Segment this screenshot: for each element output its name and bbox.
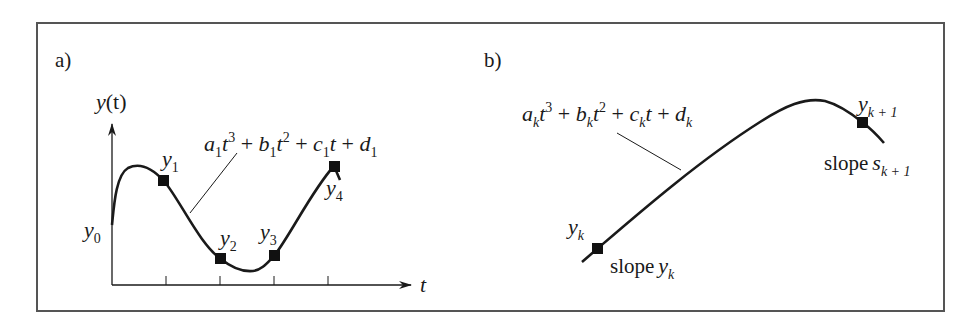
knot-yk xyxy=(592,243,603,254)
y-axis-label: y(t) xyxy=(96,91,127,113)
knot-yk1 xyxy=(857,117,868,128)
point-label-yk1: yk + 1 xyxy=(858,93,897,115)
equation-leader-b xyxy=(617,133,681,170)
equation-b: akt3 + bkt2 + ckt + dk xyxy=(522,103,692,125)
point-label-y1: y1 xyxy=(162,148,179,170)
point-label-y2: y2 xyxy=(220,227,237,249)
panel-a-label: a) xyxy=(55,50,71,71)
knot-y1 xyxy=(158,175,169,186)
point-label-yk: yk xyxy=(568,216,584,238)
slope-label-yk: slope yk xyxy=(610,255,674,277)
equation-a: a1t3 + b1t2 + c1t + d1 xyxy=(204,133,377,155)
x-axis-label: t xyxy=(420,274,426,296)
slope-label-sk1: slope sk + 1 xyxy=(824,152,911,174)
knot-y3 xyxy=(269,250,280,261)
knot-y4 xyxy=(329,161,340,172)
point-label-y0: y0 xyxy=(84,219,101,241)
point-label-y4: y4 xyxy=(326,177,343,199)
equation-leader-a xyxy=(190,153,237,213)
panel-b-label: b) xyxy=(484,50,502,71)
knot-y2 xyxy=(215,253,226,264)
point-label-y3: y3 xyxy=(260,221,277,243)
